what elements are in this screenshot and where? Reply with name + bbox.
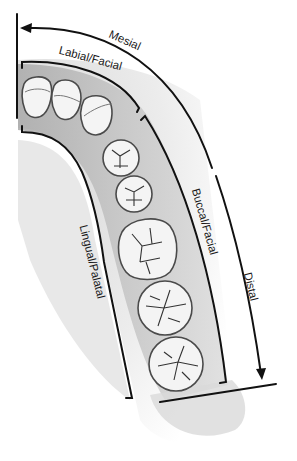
- tooth-first-molar: [119, 219, 177, 280]
- distal-arrowhead: [256, 368, 266, 380]
- arch-illustration: [0, 0, 297, 461]
- mesial-arrowhead: [20, 23, 32, 33]
- tooth-lateral-incisor: [52, 80, 81, 119]
- dental-arch-diagram: Mesial Labial/Facial Buccal/Facial Lingu…: [0, 0, 297, 461]
- tooth-first-premolar: [103, 140, 139, 176]
- tooth-third-molar: [149, 337, 203, 391]
